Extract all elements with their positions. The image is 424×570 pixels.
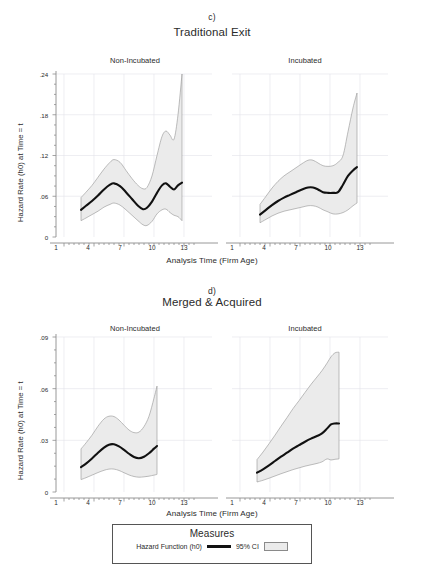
panel-d-plot-area [0, 280, 424, 515]
legend-hazard-line-swatch [207, 545, 231, 548]
hazard-rate-figure: c) Traditional Exit Non-Incubated Incuba… [0, 0, 424, 570]
legend-ci-label: 95% CI [236, 543, 259, 550]
panel-c-plot-area [0, 0, 424, 280]
legend-hazard-label: Hazard Function (h0) [136, 543, 202, 550]
panel-merged-acquired: d) Merged & Acquired Non-Incubated Incub… [0, 280, 424, 515]
legend-ci-band-swatch [264, 542, 288, 551]
panel-traditional-exit: c) Traditional Exit Non-Incubated Incuba… [0, 0, 424, 280]
legend-entries: Hazard Function (h0) 95% CI [113, 539, 311, 554]
legend-box: Measures Hazard Function (h0) 95% CI [112, 524, 312, 564]
legend-title: Measures [113, 525, 311, 539]
